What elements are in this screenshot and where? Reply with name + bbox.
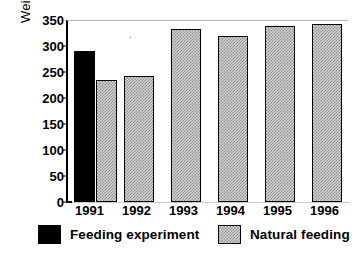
bar-group-1995 [256, 21, 303, 202]
bar-group-1996 [303, 21, 350, 202]
legend-label-feeding-experiment: Feeding experiment [70, 227, 199, 242]
y-tick-mark-200 [63, 98, 68, 99]
bar-group-1991 [68, 21, 115, 202]
legend-label-natural-feeding: Natural feeding [250, 227, 350, 242]
bar-1991-feeding-experiment [74, 51, 95, 202]
y-tick-label-350: 350 [16, 13, 69, 28]
x-axis-ticks: 199119921993199419951996 [66, 203, 348, 221]
bar-chart: Weight (g) 050100150200250300350 1991199… [0, 0, 357, 259]
y-tick-mark-250 [63, 72, 68, 73]
y-tick-label-0: 0 [16, 195, 69, 210]
bar-1992-natural-feeding [124, 76, 154, 202]
bar-group-1994 [209, 21, 256, 202]
y-tick-mark-50 [63, 176, 68, 177]
y-tick-label-150: 150 [16, 117, 69, 132]
bar-1991-natural-feeding [96, 80, 117, 202]
legend-item-feeding-experiment: Feeding experiment [38, 225, 199, 244]
bar-1996-natural-feeding [312, 24, 342, 202]
bar-group-1992 [115, 21, 162, 202]
bar-group-1993 [162, 21, 209, 202]
x-tick-label-1994: 1994 [216, 203, 245, 218]
artifact-speck [130, 37, 131, 38]
bars-container [68, 21, 348, 202]
x-tick-label-1991: 1991 [75, 203, 104, 218]
y-tick-label-300: 300 [16, 39, 69, 54]
y-tick-label-50: 50 [16, 169, 69, 184]
legend-swatch-black [38, 225, 61, 244]
y-tick-label-200: 200 [16, 91, 69, 106]
y-tick-label-100: 100 [16, 143, 69, 158]
x-tick-label-1996: 1996 [310, 203, 339, 218]
bar-1994-natural-feeding [218, 36, 248, 202]
y-tick-mark-150 [63, 124, 68, 125]
bar-1995-natural-feeding [265, 26, 295, 202]
y-tick-mark-300 [63, 46, 68, 47]
bar-1993-natural-feeding [171, 29, 201, 202]
legend-swatch-gray [218, 225, 241, 244]
y-tick-label-250: 250 [16, 65, 69, 80]
x-tick-label-1995: 1995 [263, 203, 292, 218]
x-tick-label-1992: 1992 [122, 203, 151, 218]
plot-area [66, 20, 348, 202]
legend-item-natural-feeding: Natural feeding [218, 225, 350, 244]
x-tick-label-1993: 1993 [169, 203, 198, 218]
y-tick-mark-100 [63, 150, 68, 151]
chart-legend: Feeding experiment Natural feeding [0, 224, 357, 250]
